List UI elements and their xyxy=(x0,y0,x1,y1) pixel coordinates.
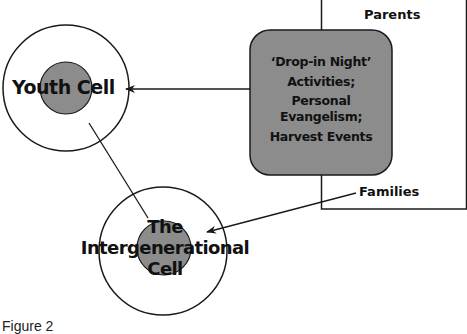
intergenerational-cell-label: The Intergenerational Cell xyxy=(72,216,258,279)
parents-label: Parents xyxy=(364,7,420,22)
activities-line-1: ‘Drop-in Night’ xyxy=(250,53,392,70)
activities-box-label: ‘Drop-in Night’ Activities; Personal Eva… xyxy=(250,53,392,145)
figure-caption: Figure 2 xyxy=(2,318,53,334)
families-label: Families xyxy=(359,184,419,199)
activities-line-5: Harvest Events xyxy=(250,128,392,145)
youth-to-intergenerational-line xyxy=(89,123,148,218)
youth-cell-label: Youth Cell xyxy=(12,76,115,98)
activities-line-4: Evangelism; xyxy=(250,108,392,125)
intergenerational-line-2: Intergenerational xyxy=(72,237,258,258)
intergenerational-line-3: Cell xyxy=(72,258,258,279)
activities-line-3: Personal xyxy=(250,93,392,108)
intergenerational-line-1: The xyxy=(72,216,258,237)
activities-line-2: Activities; xyxy=(250,73,392,90)
